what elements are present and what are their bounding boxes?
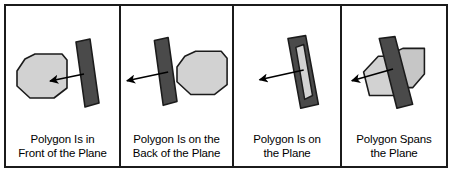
plane-slab: [154, 38, 177, 106]
spans-plane-svg: [342, 6, 446, 133]
caption-line-1: Polygon Spans: [356, 133, 431, 145]
caption-line-2: the Plane: [342, 147, 446, 161]
diagram-on-plane: [234, 6, 340, 133]
caption-line-2: Front of the Plane: [6, 147, 119, 161]
diagram-back-of-plane: [121, 6, 232, 133]
front-of-plane-svg: [6, 6, 119, 133]
caption-line-1: Polygon Is on the: [133, 133, 219, 145]
diagram-front-of-plane: [6, 6, 119, 133]
panel-front-of-plane: Polygon Is in Front of the Plane: [6, 6, 119, 166]
caption-line-1: Polygon Is on: [253, 133, 321, 145]
panel-caption: Polygon Is on the Back of the Plane: [121, 133, 232, 166]
panel-caption: Polygon Spans the Plane: [342, 133, 446, 166]
panel-caption: Polygon Is on the Plane: [234, 133, 340, 166]
polygon-shape: [17, 54, 67, 98]
plane-slab: [76, 39, 99, 107]
on-plane-svg: [234, 6, 340, 133]
panel-caption: Polygon Is in Front of the Plane: [6, 133, 119, 166]
panel-back-of-plane: Polygon Is on the Back of the Plane: [119, 6, 232, 166]
panel-spans-plane: Polygon Spans the Plane: [340, 6, 446, 166]
figure-container: Polygon Is in Front of the Plane Poly: [4, 4, 448, 168]
caption-line-2: the Plane: [234, 147, 340, 161]
back-of-plane-svg: [121, 6, 232, 133]
polygon-shape: [177, 51, 227, 94]
diagram-spans-plane: [342, 6, 446, 133]
caption-line-2: Back of the Plane: [121, 147, 232, 161]
caption-line-1: Polygon Is in: [31, 133, 95, 145]
panel-on-plane: Polygon Is on the Plane: [232, 6, 340, 166]
